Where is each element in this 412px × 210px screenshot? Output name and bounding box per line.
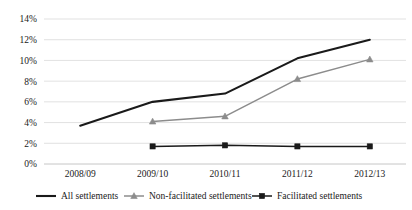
- y-tick-label: 8%: [24, 77, 37, 87]
- y-tick-label: 2%: [24, 139, 37, 149]
- y-tick-label: 0%: [24, 159, 37, 169]
- x-tick-label: 2012/13: [354, 169, 385, 179]
- series-line: [153, 59, 370, 121]
- legend-label: Non-facilitated settlements: [149, 191, 252, 201]
- data-point-marker-2: [367, 144, 372, 149]
- x-tick-label: 2010/11: [210, 169, 241, 179]
- chart-canvas: 0%2%4%6%8%10%12%14% 2008/092009/102010/1…: [0, 0, 412, 210]
- legend-label: Facilitated settlements: [277, 191, 363, 201]
- line-chart: 0%2%4%6%8%10%12%14% 2008/092009/102010/1…: [0, 0, 412, 210]
- series-facilitated-settlements: [150, 143, 372, 149]
- y-axis-tick-labels: 0%2%4%6%8%10%12%14%: [20, 14, 38, 169]
- chart-legend: All settlementsNon-facilitated settlemen…: [36, 191, 363, 201]
- series-line: [153, 145, 370, 146]
- data-point-marker-2: [222, 143, 227, 148]
- data-point-marker-2: [295, 144, 300, 149]
- data-point-marker-1: [367, 56, 373, 62]
- x-tick-label: 2011/12: [282, 169, 313, 179]
- data-point-marker-2: [150, 144, 155, 149]
- x-tick-label: 2009/10: [137, 169, 168, 179]
- series-non-facilitated-settlements: [149, 56, 373, 124]
- y-tick-label: 6%: [24, 97, 37, 107]
- data-series-layer: [80, 40, 373, 149]
- y-tick-label: 14%: [20, 14, 38, 24]
- y-tick-label: 10%: [20, 56, 38, 66]
- y-tick-label: 12%: [20, 35, 38, 45]
- gridlines: [44, 19, 406, 164]
- x-tick-label: 2008/09: [65, 169, 96, 179]
- y-tick-label: 4%: [24, 118, 37, 128]
- data-point-marker-legend-2: [259, 193, 264, 198]
- legend-label: All settlements: [61, 191, 119, 201]
- x-axis-tick-labels: 2008/092009/102010/112011/122012/13: [65, 169, 386, 179]
